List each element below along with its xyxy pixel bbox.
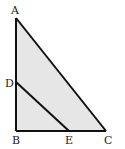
label-a: A (10, 4, 20, 17)
label-d: D (5, 77, 14, 90)
label-b: B (12, 134, 20, 147)
triangle-diagram: A D B E C (0, 0, 125, 149)
label-c: C (104, 134, 112, 147)
label-e: E (65, 134, 73, 147)
